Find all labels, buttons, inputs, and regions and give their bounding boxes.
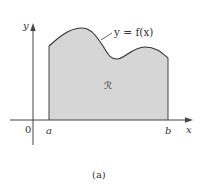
x-axis-arrow-icon <box>185 117 193 122</box>
figure-caption: (a) <box>92 169 106 180</box>
region-r <box>49 28 168 120</box>
origin-label: 0 <box>25 124 31 135</box>
tick-label-b: b <box>165 125 171 136</box>
y-axis-label: y <box>22 20 29 31</box>
x-axis-label: x <box>186 124 192 135</box>
area-under-curve-diagram: y = f(x) ℛ y x 0 a b (a) <box>0 0 205 186</box>
region-label: ℛ <box>104 80 112 91</box>
y-axis-arrow-icon <box>30 23 35 31</box>
curve-label-leader <box>101 33 112 40</box>
curve-label: y = f(x) <box>113 26 153 38</box>
tick-label-a: a <box>46 125 52 136</box>
